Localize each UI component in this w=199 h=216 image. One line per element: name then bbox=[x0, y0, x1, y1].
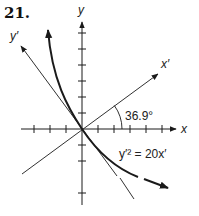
problem-number: 21. bbox=[4, 4, 30, 22]
y-prime-axis-label: y′ bbox=[9, 29, 19, 43]
x-axis-label: x bbox=[180, 122, 188, 136]
rotated-parabola-diagram: 21. x y bbox=[0, 0, 199, 216]
rotation-angle-label: 36.9° bbox=[125, 109, 153, 123]
x-prime-axis-label: x′ bbox=[160, 57, 170, 71]
parabola-equation-label: y′² = 20x′ bbox=[119, 147, 167, 161]
x-axis: x bbox=[21, 122, 188, 136]
y-prime-axis-lower-segment bbox=[120, 178, 134, 199]
y-axis-label: y bbox=[77, 3, 85, 17]
y-prime-axis: y′ bbox=[9, 29, 134, 199]
y-axis: y bbox=[77, 3, 86, 205]
rotation-angle: 36.9° bbox=[114, 106, 153, 130]
